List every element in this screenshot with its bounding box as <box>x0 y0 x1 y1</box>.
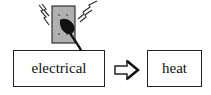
electrical-label: electrical <box>32 60 87 77</box>
wall-outlet-with-plug-icon <box>34 0 104 56</box>
right-spark-icon <box>78 1 97 22</box>
left-spark-icon <box>39 4 49 25</box>
right-arrow-icon <box>113 59 141 81</box>
electrical-energy-box: electrical <box>13 50 105 87</box>
heat-label: heat <box>162 60 187 77</box>
heat-energy-box: heat <box>147 50 202 87</box>
